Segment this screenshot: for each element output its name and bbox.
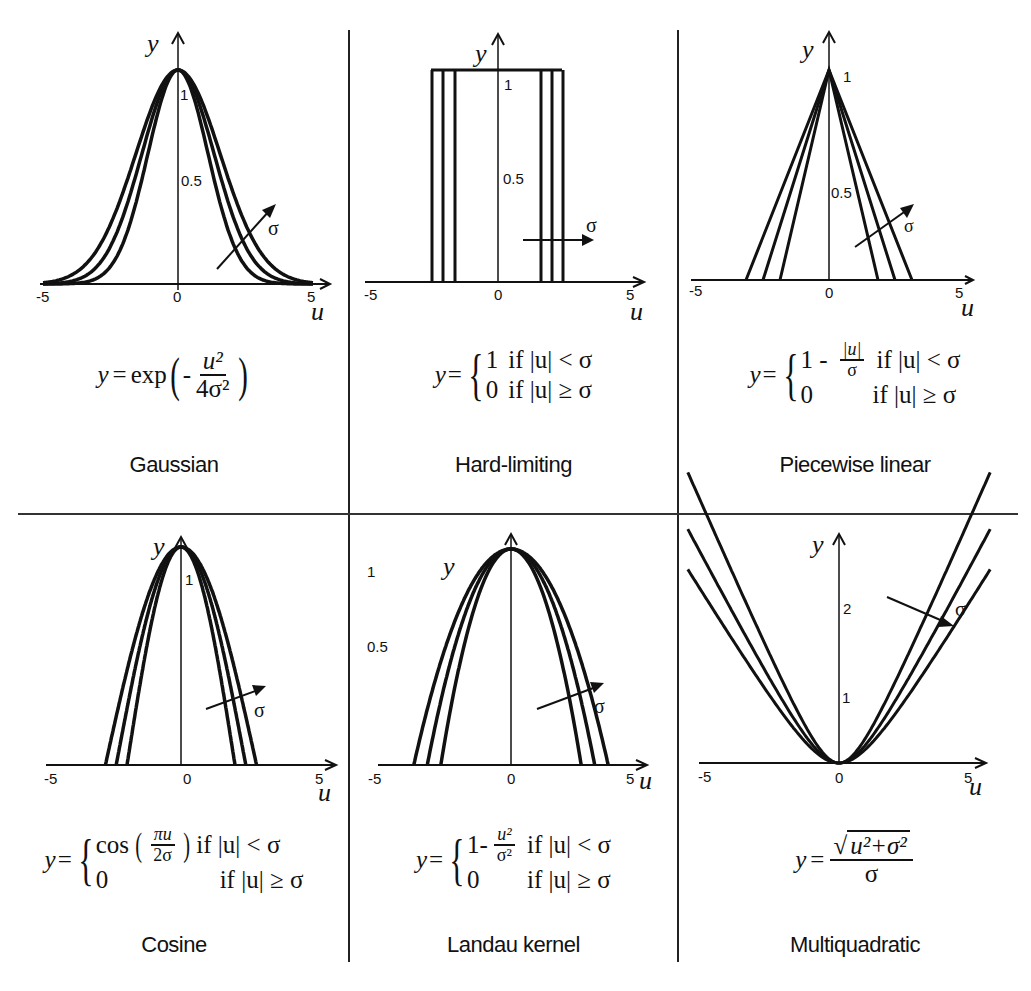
cosine-u-label: u bbox=[318, 778, 331, 807]
landau-kernel-label: Landau kernel bbox=[350, 932, 677, 958]
piecewise-linear-sigma-label: σ bbox=[904, 216, 914, 236]
kernel-functions-figure: y 1 0.5 -5 0 5 u σ y = exp ( - u²4σ² ) G… bbox=[0, 0, 1031, 991]
panel-multiquadratic: y 2 1 -5 0 5 u σ y = √u²+σ²σ Multiquadra… bbox=[679, 515, 1031, 991]
landau-kernel-ytick-1: 1 bbox=[367, 563, 375, 580]
cosine-plot: y 1 -5 0 5 u σ bbox=[0, 515, 348, 795]
hard-limiting-u-label: u bbox=[630, 297, 643, 326]
gaussian-u-label: u bbox=[311, 297, 324, 326]
piecewise-linear-ytick-1: 1 bbox=[843, 68, 851, 85]
multiquadratic-sigma-label: σ bbox=[955, 598, 966, 620]
landau-kernel-xtick-0: 0 bbox=[507, 770, 515, 787]
cosine-ytick-1: 1 bbox=[185, 571, 193, 588]
gaussian-xtick-0: 0 bbox=[173, 288, 181, 305]
gaussian-label: Gaussian bbox=[0, 452, 348, 478]
panel-landau-kernel: y 1 0.5 -5 0 5 u σ y = { 1-u²σ²if |u| < … bbox=[350, 515, 677, 991]
multiquadratic-y-label: y bbox=[809, 530, 824, 559]
landau-kernel-ytick-0.5: 0.5 bbox=[367, 638, 388, 655]
landau-kernel-formula: y = { 1-u²σ²if |u| < σ 0if |u| ≥ σ bbox=[350, 815, 677, 905]
landau-kernel-u-label: u bbox=[639, 766, 652, 795]
piecewise-linear-y-label: y bbox=[799, 35, 814, 64]
gaussian-plot: y 1 0.5 -5 0 5 u σ bbox=[0, 0, 348, 340]
hard-limiting-label: Hard-limiting bbox=[350, 452, 677, 478]
cosine-sigma-label: σ bbox=[254, 699, 265, 721]
hard-limiting-xtick-neg5: -5 bbox=[364, 286, 377, 303]
multiquadratic-ytick-2: 2 bbox=[843, 600, 851, 617]
hard-limiting-formula: y = { 1if |u| < σ 0if |u| ≥ σ bbox=[350, 335, 677, 415]
multiquadratic-ytick-1: 1 bbox=[842, 689, 850, 706]
gaussian-formula: y = exp ( - u²4σ² ) bbox=[0, 335, 348, 415]
landau-kernel-plot: y 1 0.5 -5 0 5 u σ bbox=[350, 515, 677, 795]
cosine-label: Cosine bbox=[0, 932, 348, 958]
hard-limiting-xtick-0: 0 bbox=[494, 286, 502, 303]
multiquadratic-plot: y 2 1 -5 0 5 u σ bbox=[679, 515, 1031, 795]
multiquadratic-xtick-neg5: -5 bbox=[698, 768, 711, 785]
gaussian-ytick-1: 1 bbox=[180, 86, 188, 103]
hard-limiting-sigma-label: σ bbox=[586, 214, 597, 236]
cosine-y-label: y bbox=[150, 532, 165, 561]
cosine-formula: y = { cos(πu2σ)if |u| < σ 0if |u| ≥ σ bbox=[0, 815, 348, 905]
multiquadratic-label: Multiquadratic bbox=[679, 932, 1031, 958]
cosine-xtick-0: 0 bbox=[183, 770, 191, 787]
piecewise-linear-label: Piecewise linear bbox=[679, 452, 1031, 478]
piecewise-linear-u-label: u bbox=[961, 293, 974, 322]
piecewise-linear-xtick-0: 0 bbox=[825, 284, 833, 301]
multiquadratic-formula: y = √u²+σ²σ bbox=[679, 815, 1031, 905]
gaussian-y-label: y bbox=[144, 29, 159, 58]
hard-limiting-ytick-1: 1 bbox=[504, 76, 512, 93]
hard-limiting-ytick-0.5: 0.5 bbox=[503, 170, 524, 187]
landau-kernel-xtick-5: 5 bbox=[626, 770, 634, 787]
multiquadratic-xtick-0: 0 bbox=[835, 769, 843, 786]
piecewise-linear-plot: y 1 0.5 -5 0 5 u σ bbox=[679, 0, 1031, 340]
landau-kernel-xtick-neg5: -5 bbox=[368, 770, 381, 787]
piecewise-linear-ytick-0.5: 0.5 bbox=[831, 184, 852, 201]
piecewise-linear-formula: y = { 1 -|u|σif |u| < σ 0if |u| ≥ σ bbox=[679, 335, 1031, 415]
hard-limiting-y-label: y bbox=[472, 39, 487, 68]
landau-kernel-sigma-label: σ bbox=[594, 695, 605, 717]
cosine-xtick-neg5: -5 bbox=[44, 770, 57, 787]
landau-kernel-y-label: y bbox=[440, 552, 455, 581]
gaussian-xtick-neg5: -5 bbox=[36, 288, 49, 305]
panel-cosine: y 1 -5 0 5 u σ y = { cos(πu2σ)if |u| < σ… bbox=[0, 515, 348, 991]
multiquadratic-u-label: u bbox=[969, 772, 982, 801]
hard-limiting-plot: y 1 0.5 -5 0 5 u σ bbox=[350, 0, 677, 340]
panel-piecewise-linear: y 1 0.5 -5 0 5 u σ y = { 1 -|u|σif |u| <… bbox=[679, 0, 1031, 513]
panel-gaussian: y 1 0.5 -5 0 5 u σ y = exp ( - u²4σ² ) G… bbox=[0, 0, 348, 513]
panel-hard-limiting: y 1 0.5 -5 0 5 u σ y = { 1if |u| < σ 0if… bbox=[350, 0, 677, 513]
piecewise-linear-xtick-neg5: -5 bbox=[689, 282, 702, 299]
gaussian-ytick-0.5: 0.5 bbox=[181, 172, 202, 189]
gaussian-sigma-label: σ bbox=[268, 217, 279, 239]
